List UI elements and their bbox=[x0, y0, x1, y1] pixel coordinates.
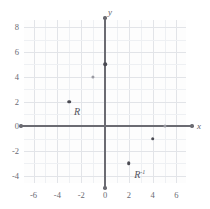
x-tick-label: 0 bbox=[103, 191, 107, 200]
data-point bbox=[151, 137, 155, 141]
point-label: R-1 bbox=[134, 169, 145, 180]
y-axis-top-endpoint bbox=[103, 16, 106, 19]
point-label-text: R bbox=[74, 106, 80, 117]
x-tick-label: -6 bbox=[30, 191, 37, 200]
coordinate-plane-figure: y x -6-4-2024686420-2-4 RR-1 bbox=[0, 0, 210, 209]
data-point bbox=[103, 63, 107, 67]
data-point bbox=[67, 100, 71, 104]
x-axis-right-endpoint bbox=[190, 124, 193, 127]
x-axis-line bbox=[21, 125, 193, 127]
y-tick-label: 6 bbox=[4, 48, 19, 57]
y-tick-label: 8 bbox=[4, 23, 19, 32]
x-tick-label: 6 bbox=[174, 191, 178, 200]
y-tick-label: -4 bbox=[4, 171, 19, 180]
y-axis-label: y bbox=[108, 8, 112, 17]
y-tick-label: 2 bbox=[4, 97, 19, 106]
y-tick-label: 4 bbox=[4, 73, 19, 82]
x-tick-label: -2 bbox=[78, 191, 85, 200]
y-tick-label: -2 bbox=[4, 147, 19, 156]
point-label: R bbox=[74, 107, 80, 117]
y-tick-label: 0 bbox=[4, 122, 19, 131]
x-axis-left-endpoint bbox=[19, 124, 22, 127]
data-point bbox=[127, 161, 131, 165]
x-tick-label: 4 bbox=[151, 191, 155, 200]
y-axis-line bbox=[104, 17, 106, 188]
x-tick-label: 2 bbox=[127, 191, 131, 200]
point-label-superscript: -1 bbox=[140, 169, 145, 175]
x-tick-label: -4 bbox=[54, 191, 61, 200]
x-axis-label: x bbox=[197, 122, 201, 131]
